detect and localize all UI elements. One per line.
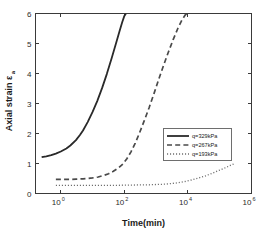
x-tick-exponent-0: 0 bbox=[62, 196, 65, 202]
y-tick-label-2: 2 bbox=[27, 130, 32, 139]
y-tick-label-4: 4 bbox=[27, 70, 32, 79]
y-tick-label-5: 5 bbox=[27, 40, 32, 49]
x-tick-exponent-2: 4 bbox=[189, 196, 192, 202]
y-tick-label-3: 3 bbox=[27, 100, 32, 109]
x-tick-label-2: 10 bbox=[179, 198, 188, 207]
x-tick-exponent-3: 6 bbox=[252, 196, 255, 202]
chart-figure: 1001021041060123456Time(min)Axial strain… bbox=[0, 0, 271, 233]
legend-label-1: q=267kPa bbox=[192, 142, 218, 148]
y-tick-label-1: 1 bbox=[27, 160, 32, 169]
plot-axes-box bbox=[36, 14, 252, 194]
y-axis-title: Axial strain εa bbox=[4, 70, 16, 131]
x-tick-label-1: 10 bbox=[115, 198, 124, 207]
legend-label-0: q=329kPa bbox=[192, 133, 218, 139]
y-axis-title-subscript: a bbox=[10, 70, 16, 74]
x-axis-title: Time(min) bbox=[122, 218, 165, 228]
x-tick-exponent-1: 2 bbox=[125, 196, 128, 202]
y-tick-label-6: 6 bbox=[27, 10, 32, 19]
x-tick-label-0: 10 bbox=[52, 198, 61, 207]
legend-label-2: q=193kPa bbox=[192, 151, 218, 157]
y-tick-label-0: 0 bbox=[27, 190, 32, 199]
chart-canvas: 1001021041060123456Time(min)Axial strain… bbox=[0, 0, 271, 233]
x-tick-label-3: 10 bbox=[243, 198, 252, 207]
y-axis-title-text: Axial strain ε bbox=[4, 75, 14, 131]
chart-legend: q=329kPaq=267kPaq=193kPa bbox=[163, 129, 231, 161]
